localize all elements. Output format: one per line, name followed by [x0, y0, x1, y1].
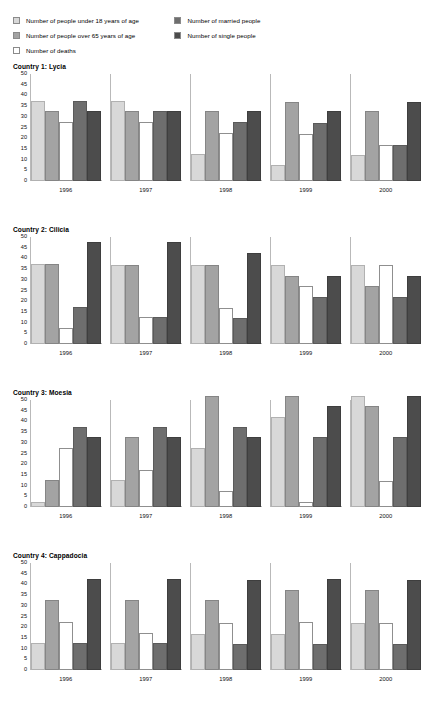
legend-item-single: Number of single people [174, 29, 374, 41]
bar [351, 396, 365, 507]
y-axis: 50454035302520151050 [13, 400, 29, 507]
chart-legend: Number of people under 18 years of ageNu… [13, 14, 408, 59]
bar [233, 644, 247, 670]
bar [365, 406, 379, 507]
bar-group [191, 563, 261, 670]
bar [285, 102, 299, 181]
legend-swatch-over65 [13, 32, 20, 39]
bar [31, 643, 45, 670]
x-axis-label: 1996 [30, 513, 102, 520]
legend-swatch-deaths [13, 47, 20, 54]
bar [111, 101, 125, 181]
y-axis-tick: 5 [24, 331, 27, 337]
bar [205, 265, 219, 344]
bar [313, 437, 327, 507]
bar [125, 600, 139, 670]
bar [111, 480, 125, 507]
y-axis-tick: 20 [21, 624, 27, 630]
legend-item-over65: Number of people over 65 years of age [13, 29, 170, 41]
bar [393, 437, 407, 507]
x-axis-label: 1998 [190, 187, 262, 194]
bar [31, 101, 45, 181]
legend-label-under18: Number of people under 18 years of age [26, 17, 139, 24]
bar [327, 276, 341, 344]
bar-group [271, 563, 341, 670]
bar [153, 427, 167, 507]
y-axis-tick: 0 [24, 667, 27, 673]
year-panel-1999: 1999 [270, 400, 347, 520]
year-panel-2000: 2000 [350, 74, 421, 194]
chart-title: Country 4: Cappadocia [13, 552, 421, 559]
bar-group [351, 400, 421, 507]
y-axis-tick: 15 [21, 146, 27, 152]
chart-block-2: Country 2: Cilicia5045403530252015105019… [0, 226, 421, 357]
legend-swatch-under18 [13, 17, 20, 24]
bar [247, 111, 261, 181]
bar [87, 111, 101, 181]
y-axis-tick: 50 [21, 397, 27, 403]
bar [271, 265, 285, 344]
bar [313, 297, 327, 344]
bar [365, 590, 379, 670]
y-axis-tick: 15 [21, 635, 27, 641]
y-axis-tick: 25 [21, 125, 27, 131]
bar [125, 437, 139, 507]
year-panel-1997: 1997 [110, 400, 187, 520]
bar [365, 111, 379, 181]
legend-label-married: Number of married people [187, 17, 260, 24]
bar [327, 579, 341, 670]
legend-label-deaths: Number of deaths [26, 47, 76, 54]
bar [407, 276, 421, 344]
bar-group [191, 237, 261, 344]
bar [167, 437, 181, 507]
bar [205, 600, 219, 670]
y-axis-tick: 25 [21, 288, 27, 294]
x-axis-label: 2000 [350, 513, 421, 520]
bar [87, 579, 101, 670]
bar-group [31, 74, 101, 181]
bar-group [31, 400, 101, 507]
bar-group [111, 74, 181, 181]
x-axis-label: 1998 [190, 676, 262, 683]
bar [299, 134, 313, 181]
bar [59, 622, 73, 670]
y-axis-tick: 40 [21, 93, 27, 99]
chart-block-4: Country 4: Cappadocia5045403530252015105… [0, 552, 421, 683]
x-axis-label: 1997 [110, 187, 182, 194]
y-axis-tick: 20 [21, 135, 27, 141]
y-axis-tick: 15 [21, 309, 27, 315]
bar [139, 122, 153, 181]
bar [327, 406, 341, 507]
bar [393, 644, 407, 670]
y-axis-tick: 5 [24, 494, 27, 500]
y-axis-tick: 35 [21, 103, 27, 109]
y-axis-tick: 45 [21, 408, 27, 414]
bar [73, 427, 87, 507]
year-panel-2000: 2000 [350, 563, 421, 683]
bar [153, 111, 167, 181]
bar [351, 265, 365, 344]
bar [233, 318, 247, 344]
legend-item-deaths: Number of deaths [13, 44, 170, 56]
bar [205, 396, 219, 507]
bar [31, 264, 45, 344]
x-axis-label: 1997 [110, 676, 182, 683]
bar [59, 328, 73, 344]
bar [111, 265, 125, 344]
y-axis-tick: 5 [24, 168, 27, 174]
y-axis-tick: 45 [21, 82, 27, 88]
y-axis-tick: 40 [21, 582, 27, 588]
bar [125, 111, 139, 181]
bar [233, 122, 247, 181]
x-axis-label: 2000 [350, 187, 421, 194]
y-axis-tick: 40 [21, 256, 27, 262]
y-axis-tick: 50 [21, 560, 27, 566]
bar [191, 448, 205, 507]
year-panel-1998: 1998 [190, 74, 267, 194]
y-axis-tick: 10 [21, 320, 27, 326]
y-axis-tick: 40 [21, 419, 27, 425]
bar [351, 155, 365, 181]
x-axis-label: 1998 [190, 350, 262, 357]
bar [299, 622, 313, 670]
bar [191, 634, 205, 670]
